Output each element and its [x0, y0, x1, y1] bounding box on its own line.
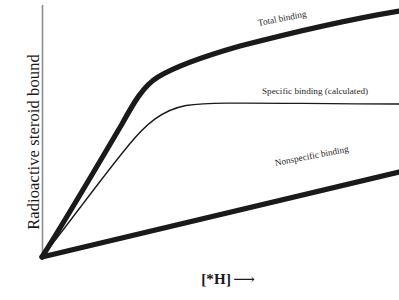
binding-curve-figure: Total binding Specific binding (calculat…: [0, 0, 399, 300]
curve-nonspecific-binding: [42, 172, 399, 257]
x-axis-title: [*H]⟶: [168, 270, 288, 288]
y-axis-title: Radioactive steroid bound: [24, 12, 46, 272]
curve-specific-binding: [42, 103, 399, 257]
right-arrow-icon: ⟶: [231, 271, 255, 287]
x-axis-title-text: [*H]: [201, 271, 231, 287]
curve-label-specific-binding: Specific binding (calculated): [262, 86, 368, 96]
curve-total-binding: [42, 11, 399, 257]
